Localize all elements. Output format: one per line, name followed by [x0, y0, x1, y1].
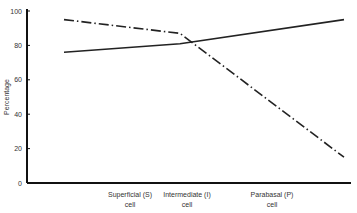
x-category-label-line2: cell [182, 201, 193, 208]
series-group [64, 20, 344, 158]
y-tick-label: 100 [10, 8, 22, 15]
line-chart: 020406080100 Percentage Superficial (S)c… [0, 0, 357, 213]
x-category-label: Intermediate (I) [163, 191, 210, 199]
x-category-label: Parabasal (P) [251, 191, 294, 199]
x-category-label-line2: cell [267, 201, 278, 208]
y-tick-label: 0 [18, 180, 22, 187]
y-tick-label: 40 [14, 111, 22, 118]
y-tick-label: 80 [14, 42, 22, 49]
x-category-label: Superficial (S) [108, 191, 152, 199]
x-category-label-line2: cell [125, 201, 136, 208]
y-tick-label: 20 [14, 145, 22, 152]
category-labels: Superficial (S)cellIntermediate (I)cellP… [108, 191, 293, 208]
axes [27, 9, 351, 183]
y-axis-label: Percentage [3, 79, 11, 115]
y-tick-label: 60 [14, 76, 22, 83]
